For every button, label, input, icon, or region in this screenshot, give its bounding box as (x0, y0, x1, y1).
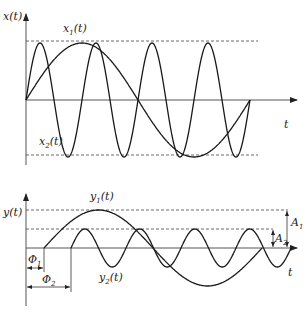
bottom-x-axis-label: t (288, 266, 293, 279)
top-x-axis-label: t (284, 118, 289, 131)
y1-label: y1(t) (89, 190, 114, 205)
x1-label: x1(t) (63, 22, 87, 37)
a2-label: A2 (274, 232, 288, 247)
bottom-y-axis-label: y(t) (2, 206, 22, 219)
phi2-label: Φ2 (42, 273, 56, 288)
top-plot: x(t) t x1(t) x2(t) (3, 10, 297, 165)
y2-label: y2(t) (98, 271, 123, 286)
signal-diagram: x(t) t x1(t) x2(t) y(t) t y1(t) y2(t) Φ1… (0, 0, 308, 318)
a1-label: A1 (290, 216, 303, 231)
bottom-plot: y(t) t y1(t) y2(t) Φ1 Φ2 A1 A2 (2, 190, 303, 306)
top-y-axis-label: x(t) (3, 10, 22, 23)
phi1-label: Φ1 (28, 253, 42, 268)
x2-label: x2(t) (39, 135, 63, 150)
